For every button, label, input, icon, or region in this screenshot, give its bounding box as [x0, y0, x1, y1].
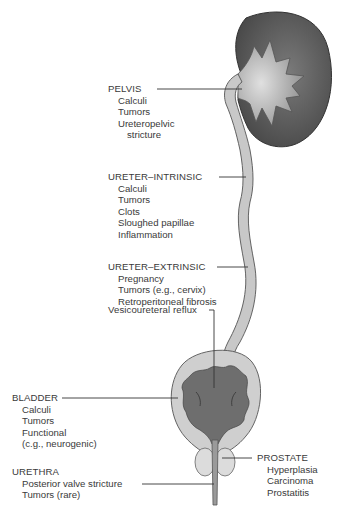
label-bladder-heading: BLADDER	[12, 392, 97, 404]
label-vesicoureteral-heading: Vesicoureteral reflux	[108, 304, 197, 316]
label-bladder-item: Calculi	[12, 404, 97, 416]
kidney	[236, 12, 332, 147]
label-ureter-extrinsic-item: Pregnancy	[108, 273, 217, 285]
urethra	[212, 440, 218, 505]
label-ureter-intrinsic-heading: URETER–INTRINSIC	[108, 171, 202, 183]
label-ureter-extrinsic-heading: URETER–EXTRINSIC	[108, 261, 217, 273]
label-ureter-intrinsic-item: Tumors	[108, 194, 202, 206]
label-ureter-intrinsic-item: Calculi	[108, 183, 202, 195]
label-prostate-item: Prostatitis	[257, 487, 318, 499]
label-prostate-item: Carcinoma	[257, 475, 318, 487]
label-prostate-heading: PROSTATE	[257, 452, 318, 464]
label-ureter-intrinsic-item: Inflammation	[108, 229, 202, 241]
label-bladder-item: (c.g., neurogenic)	[12, 438, 97, 450]
label-pelvis-heading: PELVIS	[108, 83, 175, 95]
label-bladder-item: Tumors	[12, 415, 97, 427]
label-urethra: URETHRA Posterior valve stricture Tumors…	[12, 466, 122, 501]
label-prostate: PROSTATE Hyperplasia Carcinoma Prostatit…	[257, 452, 318, 498]
label-pelvis-item: Calculi	[108, 95, 175, 107]
label-vesicoureteral: Vesicoureteral reflux	[108, 304, 197, 316]
label-ureter-extrinsic-item: Tumors (e.g., cervix)	[108, 284, 217, 296]
label-ureter-intrinsic-item: Clots	[108, 206, 202, 218]
label-prostate-item: Hyperplasia	[257, 464, 318, 476]
label-urethra-item: Tumors (rare)	[12, 489, 122, 501]
label-pelvis-item: Tumors	[108, 106, 175, 118]
label-bladder-item: Functional	[12, 427, 97, 439]
bladder	[171, 350, 260, 454]
label-pelvis: PELVIS Calculi Tumors Ureteropelvic stri…	[108, 83, 175, 141]
label-bladder: BLADDER Calculi Tumors Functional (c.g.,…	[12, 392, 97, 450]
label-ureter-intrinsic: URETER–INTRINSIC Calculi Tumors Clots Sl…	[108, 171, 202, 241]
label-pelvis-item: Ureteropelvic	[108, 118, 175, 130]
label-urethra-item: Posterior valve stricture	[12, 478, 122, 490]
label-urethra-heading: URETHRA	[12, 466, 122, 478]
label-pelvis-item: stricture	[108, 129, 175, 141]
label-ureter-extrinsic: URETER–EXTRINSIC Pregnancy Tumors (e.g.,…	[108, 261, 217, 307]
label-ureter-intrinsic-item: Sloughed papillae	[108, 217, 202, 229]
